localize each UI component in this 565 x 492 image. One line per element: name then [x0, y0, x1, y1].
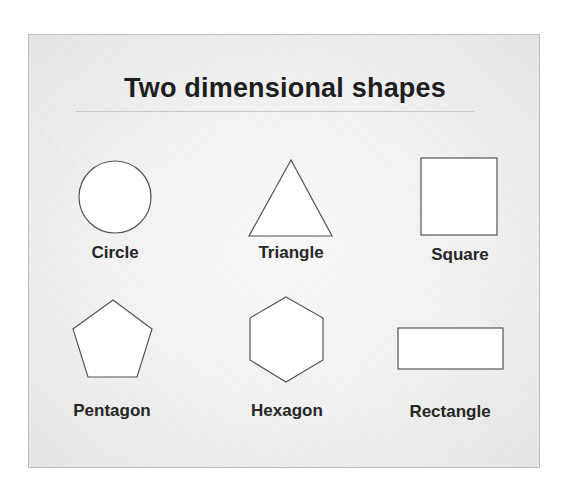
hexagon-label: Hexagon [217, 401, 357, 421]
rectangle-shape [398, 328, 503, 369]
triangle-label: Triangle [221, 243, 361, 263]
square-label: Square [390, 245, 530, 265]
rectangle-label: Rectangle [380, 402, 520, 422]
circle-label: Circle [45, 243, 185, 263]
pentagon-label: Pentagon [42, 401, 182, 421]
triangle-shape [249, 160, 332, 236]
pentagon-shape [73, 300, 152, 377]
square-shape [421, 158, 497, 235]
circle-shape [79, 161, 151, 233]
hexagon-shape [250, 297, 323, 382]
